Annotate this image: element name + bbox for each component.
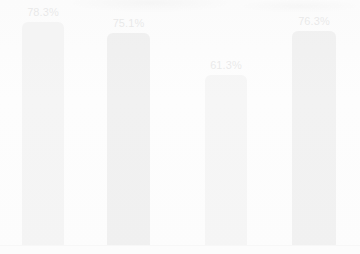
bar-3 xyxy=(205,75,247,245)
bar-2 xyxy=(107,33,150,245)
axis-baseline xyxy=(0,245,360,246)
bar-1 xyxy=(22,22,64,245)
bar-chart: 78.3% 75.1% 61.3% 76.3% xyxy=(0,0,360,254)
bar-4 xyxy=(292,31,336,245)
bar-label-4: 76.3% xyxy=(287,15,341,27)
bar-label-1: 78.3% xyxy=(16,6,70,18)
bar-label-3: 61.3% xyxy=(199,59,253,71)
bar-label-2: 75.1% xyxy=(101,17,156,29)
plot-area: 78.3% 75.1% 61.3% 76.3% xyxy=(0,0,360,254)
